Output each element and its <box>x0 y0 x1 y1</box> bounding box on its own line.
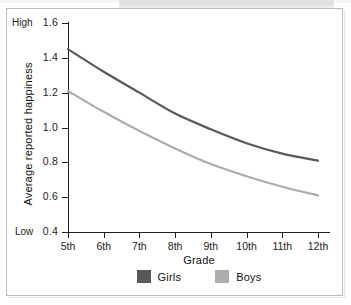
legend-swatch-girls <box>137 270 151 283</box>
x-tick-mark <box>211 232 212 238</box>
x-tick-mark <box>282 232 283 238</box>
y-axis-line <box>68 22 69 233</box>
x-tick-label: 5th <box>51 240 85 252</box>
x-tick-mark <box>247 232 248 238</box>
legend-item: Girls <box>137 270 182 283</box>
y-tick-label: 0.8 <box>43 155 58 167</box>
y-tick-mark <box>62 197 68 198</box>
x-axis-title: Grade <box>68 254 330 266</box>
y-tick-label: 0.6 <box>43 190 58 202</box>
x-tick-label: 10th <box>230 240 264 252</box>
legend-item: Boys <box>215 270 261 283</box>
legend-label: Boys <box>236 271 261 283</box>
y-axis-low-label: Low <box>15 226 33 237</box>
y-tick-label: 0.4 <box>43 225 58 237</box>
y-tick-mark <box>62 93 68 94</box>
y-tick-mark <box>62 58 68 59</box>
chart-page: High Low Average reported happiness Grad… <box>0 0 351 305</box>
x-tick-label: 7th <box>122 240 156 252</box>
x-tick-label: 12th <box>301 240 335 252</box>
y-tick-label: 1.2 <box>43 86 58 98</box>
y-tick-label: 1.4 <box>43 51 58 63</box>
x-tick-label: 11th <box>265 240 299 252</box>
chart-legend: GirlsBoys <box>68 270 330 283</box>
x-tick-label: 9th <box>194 240 228 252</box>
x-tick-label: 6th <box>87 240 121 252</box>
y-axis-high-label: High <box>12 17 33 28</box>
x-tick-mark <box>175 232 176 238</box>
x-tick-label: 8th <box>158 240 192 252</box>
y-tick-mark <box>62 162 68 163</box>
x-tick-mark <box>68 232 69 238</box>
legend-swatch-boys <box>215 270 229 283</box>
y-tick-label: 1.0 <box>43 121 58 133</box>
x-axis-line <box>68 232 330 233</box>
legend-label: Girls <box>158 271 182 283</box>
y-tick-mark <box>62 23 68 24</box>
x-tick-mark <box>139 232 140 238</box>
y-axis-title: Average reported happiness <box>22 44 34 224</box>
y-tick-label: 1.6 <box>43 16 58 28</box>
x-tick-mark <box>104 232 105 238</box>
x-tick-mark <box>318 232 319 238</box>
y-tick-mark <box>62 128 68 129</box>
